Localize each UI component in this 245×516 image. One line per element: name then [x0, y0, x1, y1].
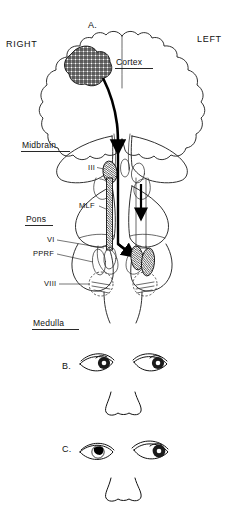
medulla-tail-right: [104, 292, 110, 323]
panel-label-c: C.: [62, 444, 71, 454]
label-vestibular: VIII: [44, 279, 56, 288]
panel-c-nose: [106, 478, 142, 501]
cerebrum-outline-left: [122, 31, 205, 159]
panel-b-left-eye: [133, 354, 167, 371]
figure-svg: A. RIGHT LEFT: [0, 0, 245, 516]
label-cortex: Cortex: [116, 57, 143, 67]
descending-fiber-right: [118, 150, 128, 252]
panel-a-group: A. RIGHT LEFT: [6, 20, 222, 330]
panel-label-b: B.: [62, 361, 71, 371]
label-oculomotor-nucleus: III: [88, 163, 95, 172]
leader-vi: [57, 240, 104, 248]
leader-pprf: [57, 254, 93, 262]
panel-c-group: C.: [62, 441, 168, 501]
label-pons: Pons: [26, 214, 46, 224]
panel-label-a: A.: [88, 20, 97, 30]
label-mlf: MLF: [79, 201, 95, 210]
neuroanatomy-figure: A. RIGHT LEFT: [0, 0, 245, 516]
pontine-band-left: [130, 234, 165, 238]
label-midbrain: Midbrain: [22, 140, 56, 150]
descending-fiber-right-arrow: [118, 244, 130, 253]
label-pprf: PPRF: [33, 249, 54, 258]
panel-b-group: B.: [62, 354, 167, 415]
orientation-label-right: RIGHT: [6, 39, 38, 49]
leader-mlf: [99, 206, 106, 209]
label-medulla: Medulla: [33, 318, 64, 328]
panel-c-right-eye: [80, 443, 114, 459]
pprf-left: [140, 247, 155, 276]
midbrain-midline-oval: [121, 159, 130, 177]
medulla-tail-left: [136, 292, 142, 323]
oculomotor-nucleus-left: [130, 162, 146, 184]
orientation-label-left: LEFT: [197, 34, 222, 44]
panel-c-left-eye: [132, 441, 168, 459]
mlf-tract: [107, 178, 113, 250]
panel-b-right-eye: [80, 354, 114, 371]
label-abducens: VI: [47, 235, 55, 244]
panel-b-nose: [106, 392, 142, 415]
